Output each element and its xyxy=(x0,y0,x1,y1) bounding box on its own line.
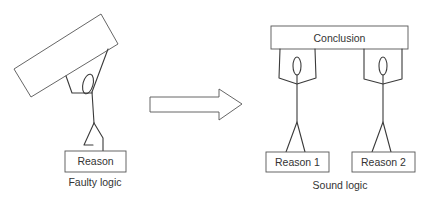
figure-head xyxy=(379,57,387,75)
conclusion-label: Conclusion xyxy=(314,32,366,44)
sound-logic-caption: Sound logic xyxy=(313,179,368,191)
figure-head xyxy=(293,57,301,75)
tilted-conclusion-box xyxy=(14,14,118,97)
figure-head xyxy=(81,73,96,95)
reason-2-label: Reason 2 xyxy=(361,156,406,168)
faulty-logic-caption: Faulty logic xyxy=(68,176,121,188)
figure-left-arm xyxy=(66,76,92,93)
reason-2-box: Reason 2 xyxy=(352,152,415,172)
figure-legs xyxy=(372,122,391,152)
conclusion-box: Conclusion xyxy=(271,26,408,49)
sound-logic-panel: Conclusion Reason 1 Reason 2 Sound logic xyxy=(266,26,415,191)
stick-figure-reason-2 xyxy=(364,49,402,152)
reason-1-box: Reason 1 xyxy=(266,152,329,172)
stick-figure-reason-1 xyxy=(279,49,316,152)
figure-legs xyxy=(286,122,305,152)
logic-diagram: Reason Faulty logic Conclusion Reason 1 xyxy=(0,0,426,198)
figure-left-leg xyxy=(84,123,94,145)
reason-box: Reason xyxy=(65,151,126,172)
arrow-right-icon xyxy=(150,89,242,120)
figure-body xyxy=(92,92,94,123)
faulty-logic-panel: Reason Faulty logic xyxy=(14,14,126,188)
reason-label: Reason xyxy=(77,155,113,167)
reason-1-label: Reason 1 xyxy=(275,156,320,168)
figure-right-leg xyxy=(94,123,103,151)
